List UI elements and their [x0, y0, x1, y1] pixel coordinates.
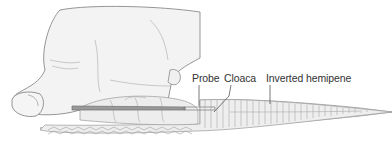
label-inverted-hemipene: Inverted hemipene [266, 72, 351, 84]
label-probe: Probe [192, 72, 220, 84]
label-cloaca: Cloaca [224, 72, 256, 84]
snake-probing-diagram: Probe Cloaca Inverted hemipene [0, 0, 392, 146]
